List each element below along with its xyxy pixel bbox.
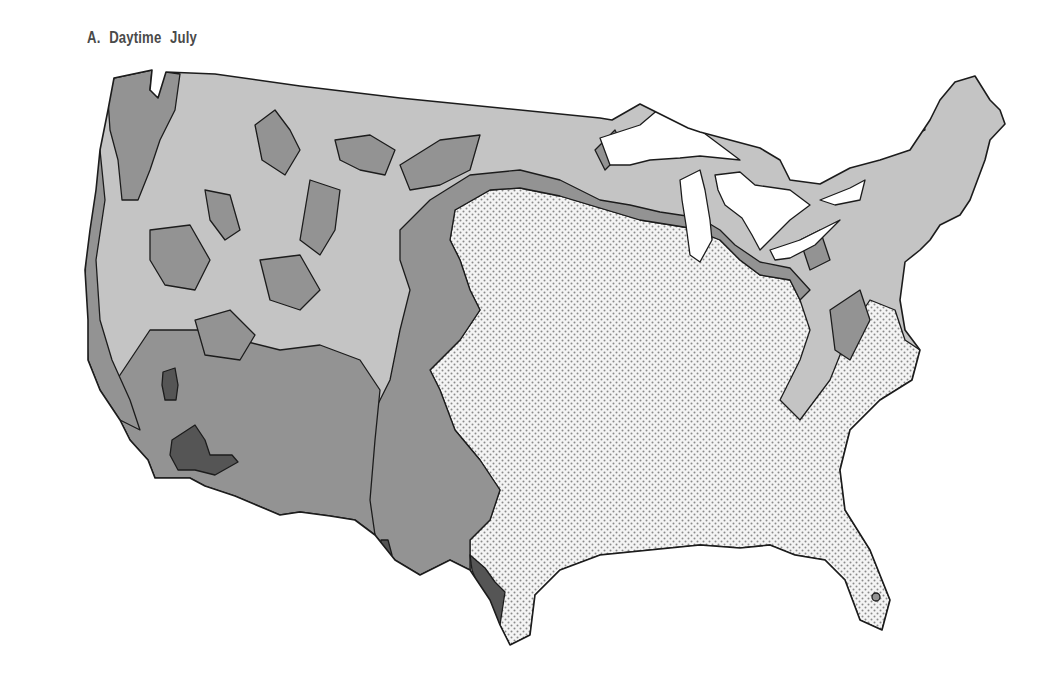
florida-spot bbox=[872, 593, 880, 601]
us-map bbox=[0, 0, 1043, 677]
map-body bbox=[0, 0, 1043, 677]
zone-medium-southwest bbox=[110, 330, 380, 535]
